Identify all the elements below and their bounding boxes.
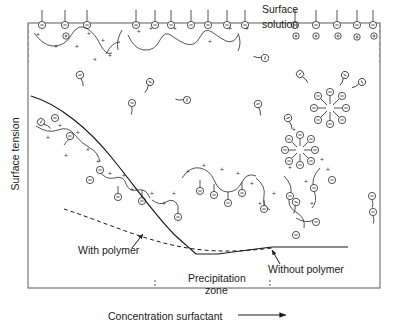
micelle-right-edge: + + [281,126,324,169]
svg-text:+: + [292,126,296,133]
svg-text:+: + [220,166,224,173]
svg-text:+: + [87,30,91,37]
surface-adsorbed-surfactants [42,10,373,21]
svg-text:+: + [258,200,262,207]
precipitation-zone-label-line1: Precipitation [188,272,246,284]
free-surfactant-monomers [36,52,377,223]
svg-text:+: + [64,152,68,159]
svg-text:+: + [75,43,79,50]
polymer-surfactant-complexes [36,126,320,228]
svg-text:+: + [326,166,330,173]
svg-text:+: + [186,168,190,175]
figure-container: +++ +++ +++ +++ + [0,0,393,328]
svg-text:+: + [36,31,40,38]
svg-text:+: + [93,56,97,63]
svg-text:+: + [172,190,176,197]
svg-text:+: + [101,37,105,44]
with-polymer-label: With polymer [78,244,139,256]
svg-text:+: + [228,25,232,32]
svg-text:+: + [58,122,62,129]
svg-text:+: + [288,164,292,171]
svg-text:+: + [236,170,240,177]
svg-text:+: + [310,200,314,207]
without-polymer-arrow [272,250,280,264]
svg-text:+: + [108,52,112,59]
polymer-positive-charges-top: +++ +++ +++ +++ + [36,25,249,63]
surface-layer-boundaries [29,24,380,62]
svg-text:+: + [250,180,254,187]
svg-text:+: + [130,186,134,193]
svg-text:+: + [202,162,206,169]
surface-label-line1: Surface [262,3,298,15]
svg-text:+: + [108,170,112,177]
svg-text:+: + [245,25,249,32]
curve-without-polymer [31,96,348,254]
micelle-upper-right [310,88,349,127]
x-axis-label: Concentration surfactant [108,310,222,322]
svg-text:+: + [149,25,153,32]
svg-text:+: + [162,200,166,207]
svg-text:+: + [76,129,80,136]
svg-text:+: + [304,178,308,185]
surface-counter-ions [63,33,377,40]
y-axis-label: Surface tension [9,111,21,197]
without-polymer-label: Without polymer [268,263,344,275]
svg-text:+: + [86,146,90,153]
svg-text:+: + [150,190,154,197]
precipitation-zone-label-line2: zone [205,284,228,296]
svg-text:+: + [173,25,177,32]
svg-text:+: + [320,156,324,163]
svg-text:+: + [208,38,212,45]
svg-text:+: + [272,190,276,197]
svg-text:+: + [46,134,50,141]
svg-text:+: + [137,28,141,35]
svg-text:+: + [96,158,100,165]
svg-text:+: + [54,43,58,50]
surface-label-line2: solution [262,18,298,30]
